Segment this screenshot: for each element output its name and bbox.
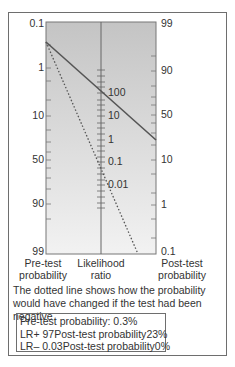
left-tick: 10 — [32, 110, 44, 121]
right-tick: 50 — [161, 109, 173, 120]
right-axis-title: Post-testprobability — [146, 257, 218, 281]
mid-tick: 1 — [108, 134, 114, 145]
left-tick: 0.1 — [29, 18, 44, 29]
mid-tick: 0.01 — [108, 179, 128, 190]
right-tick: 90 — [161, 65, 173, 76]
right-tick: 99 — [161, 18, 173, 29]
left-tick: 99 — [32, 246, 44, 257]
left-tick: 1 — [38, 62, 44, 73]
right-tick: 0.1 — [161, 246, 176, 257]
right-tick: 1 — [161, 199, 167, 210]
left-axis-title: Pre-testprobability — [10, 257, 76, 281]
lr-negative-row: LR– 0.03 Post-test probability 0% — [20, 340, 162, 353]
summary-box: Pre-test probability: 0.3% LR+ 97 Post-t… — [16, 313, 166, 352]
mid-tick: 0.1 — [108, 156, 123, 167]
lr-positive-row: LR+ 97 Post-test probability 23% — [20, 328, 162, 341]
mid-tick: 10 — [108, 110, 120, 121]
left-tick: 90 — [32, 198, 44, 209]
mid-axis-title: Likelihoodratio — [70, 257, 132, 281]
right-tick: 10 — [161, 154, 173, 165]
pretest-probability: Pre-test probability: 0.3% — [20, 315, 162, 328]
mid-tick: 100 — [108, 87, 126, 98]
left-tick: 50 — [32, 154, 44, 165]
